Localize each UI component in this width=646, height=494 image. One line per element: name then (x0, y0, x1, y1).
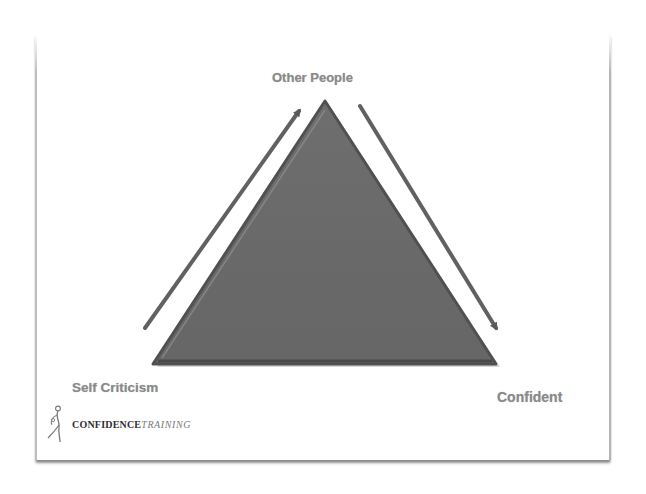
triangle-shape (153, 101, 496, 364)
brand-wordmark: CONFIDENCETRAINING (72, 419, 191, 430)
vertex-label-bottom-left: Self Criticism (72, 380, 158, 395)
vertex-label-bottom-right: Confident (497, 389, 562, 405)
vertex-label-top: Other People (272, 70, 353, 85)
brand-bold: CONFIDENCE (72, 419, 141, 430)
brand-logo: CONFIDENCETRAINING (46, 404, 191, 444)
figure-icon (46, 405, 66, 443)
brand-italic: TRAINING (141, 419, 191, 430)
